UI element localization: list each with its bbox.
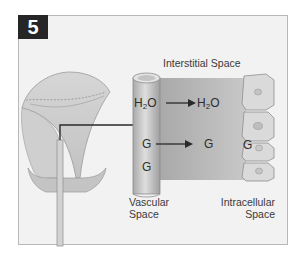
interstitial-space-label: Interstitial Space	[163, 57, 241, 69]
glucose-interstitial-label: G	[204, 137, 213, 151]
blood-vessel	[133, 73, 160, 197]
water-interstitial-label: H2O	[197, 96, 219, 114]
vascular-label-line2: Space	[129, 208, 169, 220]
vascular-label-line1: Vascular	[129, 196, 169, 208]
glucose-vascular-label-2: G	[142, 160, 151, 174]
intracellular-cells	[242, 74, 274, 181]
glucose-cell-label: G	[243, 138, 252, 152]
water-vascular-label: H2O	[134, 96, 156, 114]
intracellular-space-label: Intracellular Space	[215, 196, 275, 220]
glucose-vascular-label: G	[142, 137, 151, 151]
uterus-illustration	[22, 72, 111, 192]
interstitial-space-region	[158, 78, 246, 180]
vascular-space-label: Vascular Space	[129, 196, 169, 220]
intracellular-label-line1: Intracellular	[215, 196, 275, 208]
intracellular-label-line2: Space	[215, 208, 275, 220]
